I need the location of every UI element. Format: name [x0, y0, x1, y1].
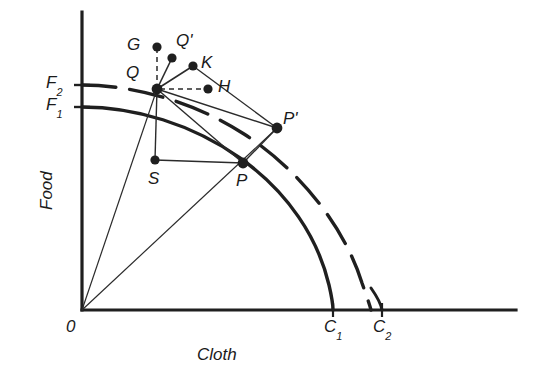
y-axis-title: Food: [38, 171, 55, 210]
point-marker-G: [152, 42, 161, 51]
point-marker-H: [203, 84, 212, 93]
point-marker-Qprime: [167, 53, 176, 62]
point-marker-Q: [152, 84, 163, 95]
point-label-Q: Q: [126, 64, 139, 81]
origin-rays-group: [82, 89, 277, 310]
axes-group: [82, 12, 516, 310]
point-label-G: G: [127, 36, 140, 53]
frontier-f1-curve: [82, 107, 333, 310]
x-tick-label-c1: C1: [324, 318, 342, 338]
y-tick-label-f1-sub: 1: [56, 108, 62, 120]
segment-S-P: [155, 160, 243, 163]
ray-origin-to-Q: [82, 89, 157, 310]
frontier-f1-path: [82, 107, 333, 310]
point-label-P: P: [236, 172, 247, 189]
segment-Q-S: [155, 89, 157, 160]
point-label-H: H: [218, 78, 230, 95]
y-tick-label-f1-base: F: [46, 95, 56, 114]
x-tick-label-c2-base: C: [373, 317, 385, 336]
y-tick-label-f2: F2: [46, 74, 63, 94]
point-label-Q-prime: Q': [176, 32, 192, 49]
frontier-f2-curve: [82, 85, 382, 310]
x-tick-label-c1-sub: 1: [336, 330, 342, 342]
point-label-K: K: [201, 54, 212, 71]
x-axis-title: Cloth: [197, 346, 237, 363]
point-label-P-prime: P': [283, 110, 298, 127]
segment-P-Pprime: [243, 128, 277, 163]
diagram-canvas: [0, 0, 548, 374]
ppf-diagram-figure: G Q' K Q H P' S P F2 F1 C1 C2 0 Food Clo…: [0, 0, 548, 374]
x-tick-label-c2-sub: 2: [385, 330, 391, 342]
x-tick-label-c2: C2: [373, 318, 391, 338]
point-marker-Pprime: [272, 123, 283, 134]
frontier-f2-tail: [371, 288, 382, 310]
segment-K-Pprime: [193, 66, 277, 128]
ray-origin-to-Pprime: [82, 128, 277, 310]
point-marker-S: [150, 155, 159, 164]
construction-segments-group: [155, 58, 277, 163]
point-marker-P: [238, 158, 249, 169]
origin-label: 0: [66, 318, 75, 335]
point-marker-K: [188, 61, 197, 70]
y-tick-label-f2-base: F: [46, 73, 56, 92]
y-tick-label-f1: F1: [46, 96, 63, 116]
x-tick-label-c1-base: C: [324, 317, 336, 336]
point-markers-group: [150, 42, 282, 168]
point-label-S: S: [148, 170, 159, 187]
